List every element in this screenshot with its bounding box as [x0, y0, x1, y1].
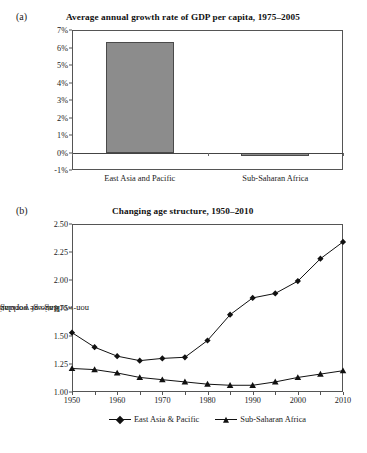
chart-a-category-label: East Asia and Pacific	[104, 174, 175, 183]
chart-b-data-point	[91, 344, 97, 350]
chart-b-legend: East Asia & PacificSub-Saharan Africa	[72, 415, 343, 424]
panel-b-line-chart: (b) Changing age structure, 1950–2010 Ra…	[0, 196, 367, 453]
chart-b-series-layer	[72, 224, 343, 392]
chart-a-category-label: Sub-Saharan Africa	[242, 174, 308, 183]
chart-b-data-point	[114, 353, 120, 359]
chart-a-category-tick	[208, 153, 209, 156]
chart-a-title: Average annual growth rate of GDP per ca…	[66, 12, 300, 22]
chart-b-x-tick-label: 1970	[154, 396, 170, 405]
chart-a-y-tick-mark	[69, 65, 72, 66]
chart-b-x-tick-mark	[275, 392, 276, 395]
chart-b-x-tick-label: 1960	[109, 396, 125, 405]
chart-b-x-tick-label: 1980	[199, 396, 215, 405]
chart-b-x-tick-mark	[298, 392, 299, 395]
chart-a-y-tick-mark	[69, 47, 72, 48]
chart-a-plot-area: 7%6%5%4%3%2%1%0%-1% East Asia and Pacifi…	[72, 30, 343, 170]
chart-b-legend-label: East Asia & Pacific	[134, 415, 199, 424]
chart-a-y-tick-mark	[69, 117, 72, 118]
panel-b-letter: (b)	[16, 205, 28, 216]
chart-b-x-tick-mark	[162, 392, 163, 395]
chart-b-x-tick-label: 2000	[290, 396, 306, 405]
chart-b-x-tick-label: 1990	[244, 396, 260, 405]
chart-b-title: Changing age structure, 1950–2010	[112, 206, 253, 216]
chart-b-legend-marker	[109, 415, 131, 424]
chart-b-data-point	[137, 358, 143, 364]
panel-a-bar-chart: (a) Average annual growth rate of GDP pe…	[0, 0, 367, 196]
chart-b-x-tick-mark	[343, 392, 344, 395]
chart-b-x-tick-mark	[230, 392, 231, 395]
chart-b-x-tick-label: 1950	[64, 396, 80, 405]
chart-b-x-tick-mark	[253, 392, 254, 395]
chart-b-legend-item: East Asia & Pacific	[109, 415, 199, 424]
chart-b-x-tick-mark	[117, 392, 118, 395]
chart-a-y-tick-mark	[69, 170, 72, 171]
chart-a-bar	[106, 42, 174, 152]
chart-a-category-tick	[72, 153, 73, 156]
chart-b-legend-item: Sub-Saharan Africa	[215, 415, 306, 424]
diamond-icon	[116, 415, 124, 423]
chart-b-legend-marker	[215, 415, 237, 424]
chart-b-plot-area: 1.001.251.501.752.002.252.50 19501960197…	[72, 224, 343, 392]
chart-b-x-tick-label: 2010	[335, 396, 351, 405]
panel-a-letter: (a)	[16, 11, 27, 22]
chart-a-y-tick-mark	[69, 82, 72, 83]
triangle-icon	[223, 416, 229, 422]
chart-b-y-axis-label: Ratio of working-age to non-working-age …	[14, 224, 44, 392]
chart-b-x-tick-mark	[140, 392, 141, 395]
chart-a-y-tick-mark	[69, 135, 72, 136]
chart-a-category-tick	[343, 153, 344, 156]
chart-b-data-point	[159, 355, 165, 361]
chart-a-y-tick-mark	[69, 100, 72, 101]
chart-b-legend-label: Sub-Saharan Africa	[240, 415, 306, 424]
chart-a-y-tick-mark	[69, 30, 72, 31]
chart-b-x-tick-mark	[320, 392, 321, 395]
chart-b-x-tick-mark	[95, 392, 96, 395]
chart-b-x-tick-mark	[208, 392, 209, 395]
chart-b-data-point	[340, 367, 347, 373]
chart-b-data-point	[272, 290, 278, 296]
chart-b-x-tick-mark	[185, 392, 186, 395]
chart-b-x-tick-mark	[72, 392, 73, 395]
